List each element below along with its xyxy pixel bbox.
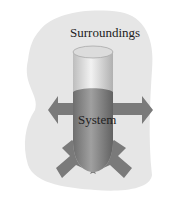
liquid <box>73 88 113 172</box>
surroundings-label: Surroundings <box>70 25 140 41</box>
cylinder-top <box>73 46 113 58</box>
system-label: System <box>78 112 116 128</box>
